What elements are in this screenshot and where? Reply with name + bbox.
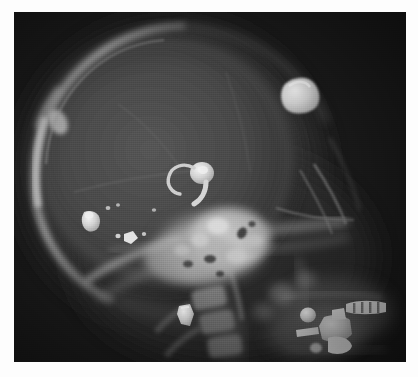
page-canvas: Radiopaque foreign bodies Grayscale late… xyxy=(0,0,418,377)
radiograph-image xyxy=(14,12,406,362)
film-vignette-overlay xyxy=(14,12,406,362)
